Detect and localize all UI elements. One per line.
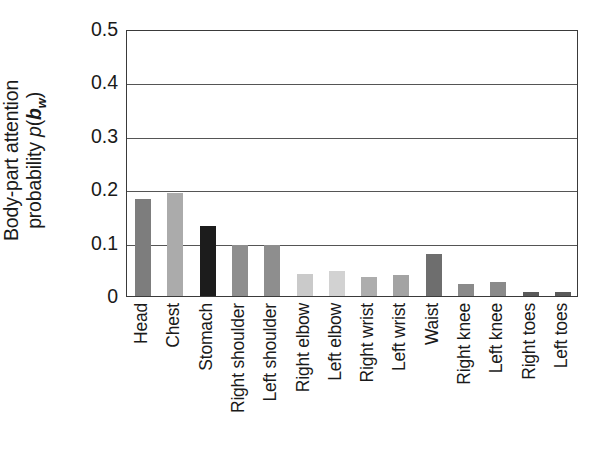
x-axis-tick-label: Left knee <box>481 299 513 465</box>
bar <box>426 254 442 296</box>
bar <box>264 245 280 296</box>
y-axis-title-subscript-w: w <box>33 98 48 108</box>
x-axis-tick-label-text: Right wrist <box>359 303 377 382</box>
bar <box>523 292 539 296</box>
bar <box>458 284 474 296</box>
y-axis-title-text: Body-part attention probability p(bw) <box>0 80 52 241</box>
x-axis-tick-label: Left toes <box>546 299 578 465</box>
y-axis-title-line2: probability p(bw) <box>23 80 53 241</box>
x-axis-tick-label: Right elbow <box>287 299 319 465</box>
y-axis-title-paren-open: ( <box>23 120 45 126</box>
x-axis-tick-label: Right shoulder <box>223 299 255 465</box>
x-axis-tick-label: Right knee <box>449 299 481 465</box>
x-axis-tick-label: Left wrist <box>384 299 416 465</box>
bar <box>297 274 313 296</box>
bar <box>393 275 409 296</box>
bar <box>200 226 216 296</box>
y-axis-title-symbol-b: b <box>23 108 45 120</box>
y-axis-tick-label: 0.4 <box>91 74 118 94</box>
y-axis-title: Body-part attention probability p(bw) <box>0 0 52 320</box>
y-axis-title-line2-prefix: probability <box>23 136 45 228</box>
x-axis-tick-labels: HeadChestStomachRight shoulderLeft shoul… <box>126 299 578 465</box>
x-axis-tick-label: Right wrist <box>352 299 384 465</box>
bar <box>167 193 183 296</box>
x-axis-tick-label: Head <box>126 299 158 465</box>
bar <box>555 292 571 296</box>
plot-area <box>126 30 578 297</box>
y-axis-tick-label: 0.5 <box>91 20 118 40</box>
y-axis-title-symbol-p: p <box>23 126 45 137</box>
x-axis-tick-label-text: Chest <box>166 303 184 348</box>
x-axis-tick-label: Right toes <box>513 299 545 465</box>
x-axis-tick-label-text: Left knee <box>489 303 507 373</box>
x-axis-tick-label-text: Right toes <box>521 303 539 380</box>
x-axis-tick-label: Left elbow <box>320 299 352 465</box>
bar <box>135 199 151 296</box>
x-axis-tick-label-text: Waist <box>424 303 442 345</box>
x-axis-tick-label-text: Right shoulder <box>230 303 248 413</box>
bar <box>361 277 377 296</box>
y-axis-title-paren-close: ) <box>23 92 45 98</box>
x-axis-tick-label-text: Left wrist <box>392 303 410 371</box>
x-axis-tick-label: Waist <box>417 299 449 465</box>
y-axis-tick-label: 0.1 <box>91 234 118 254</box>
y-axis-tick-label: 0.2 <box>91 180 118 200</box>
y-axis-tick-label: 0.3 <box>91 127 118 147</box>
x-axis-tick-label-text: Left toes <box>553 303 571 368</box>
x-axis-tick-label: Chest <box>158 299 190 465</box>
y-axis-tick-label: 0 <box>107 287 118 307</box>
bar <box>232 245 248 296</box>
bar <box>329 271 345 296</box>
bar-chart-figure: Body-part attention probability p(bw) 0.… <box>0 0 600 465</box>
bar-series <box>127 31 577 296</box>
x-axis-tick-label-text: Right knee <box>456 303 474 385</box>
x-axis-tick-label-text: Right elbow <box>295 303 313 392</box>
x-axis-tick-label: Left shoulder <box>255 299 287 465</box>
x-axis-tick-label: Stomach <box>191 299 223 465</box>
x-axis-tick-label-text: Head <box>133 303 151 344</box>
bar <box>490 282 506 296</box>
y-axis-title-line1: Body-part attention <box>0 80 22 241</box>
y-axis-tick-labels: 0.50.40.30.20.10 <box>52 0 125 320</box>
x-axis-tick-label-text: Left elbow <box>327 303 345 381</box>
x-axis-tick-label-text: Stomach <box>198 303 216 371</box>
x-axis-tick-label-text: Left shoulder <box>263 303 281 402</box>
